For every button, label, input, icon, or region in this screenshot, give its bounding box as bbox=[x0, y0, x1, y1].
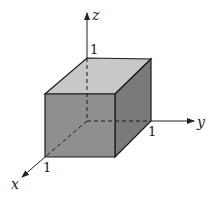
box-diagram: z y x 1 1 1 bbox=[0, 0, 213, 201]
z-tick-label: 1 bbox=[90, 42, 98, 57]
x-axis-label: x bbox=[11, 176, 19, 192]
x-tick-label: 1 bbox=[43, 160, 51, 175]
front-face bbox=[45, 94, 115, 157]
y-tick-label: 1 bbox=[148, 124, 156, 139]
y-axis-label: y bbox=[196, 114, 206, 130]
z-axis-label: z bbox=[91, 7, 100, 23]
x-axis bbox=[22, 157, 45, 177]
